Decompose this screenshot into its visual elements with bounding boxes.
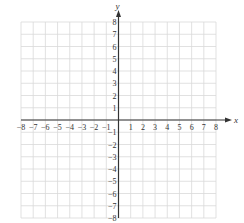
coordinate-plane: −8−7−6−5−4−3−2−112345678 −8−7−6−5−4−3−2−… — [0, 0, 244, 223]
y-tick-label: −8 — [108, 214, 117, 223]
x-tick-label: 8 — [214, 123, 218, 132]
x-tick-label: 4 — [165, 123, 169, 132]
x-tick-label: −4 — [65, 123, 74, 132]
y-tick-label: 6 — [113, 43, 117, 52]
y-tick-label: −3 — [108, 153, 117, 162]
x-tick-label: 3 — [153, 123, 157, 132]
y-tick-label: 2 — [113, 92, 117, 101]
y-tick-label: 7 — [113, 30, 117, 39]
y-tick-label: −7 — [108, 202, 117, 211]
y-axis-label: y — [115, 1, 120, 11]
y-tick-label: −5 — [108, 177, 117, 186]
x-tick-label: −7 — [29, 123, 38, 132]
y-tick-label: −6 — [108, 190, 117, 199]
x-tick-label: 2 — [141, 123, 145, 132]
y-tick-label: −2 — [108, 141, 117, 150]
x-tick-label: −2 — [90, 123, 99, 132]
y-tick-label: −1 — [108, 128, 117, 137]
x-tick-label: 6 — [190, 123, 194, 132]
y-tick-label: 1 — [113, 104, 117, 113]
x-tick-labels: −8−7−6−5−4−3−2−112345678 — [17, 123, 218, 132]
x-axis-label: x — [233, 115, 238, 125]
y-tick-label: 4 — [113, 67, 117, 76]
y-tick-label: −4 — [108, 165, 117, 174]
y-tick-label: 5 — [113, 55, 117, 64]
x-tick-label: −5 — [53, 123, 62, 132]
x-axis-arrow-icon — [225, 118, 232, 123]
x-tick-label: −6 — [41, 123, 50, 132]
x-tick-label: 7 — [202, 123, 206, 132]
y-axis-arrow-icon — [116, 10, 121, 17]
x-tick-label: 1 — [129, 123, 133, 132]
y-tick-label: 3 — [113, 79, 117, 88]
y-tick-label: 8 — [113, 18, 117, 27]
x-tick-label: −8 — [17, 123, 26, 132]
x-tick-label: 5 — [177, 123, 181, 132]
x-tick-label: −3 — [78, 123, 87, 132]
axes — [21, 10, 232, 218]
